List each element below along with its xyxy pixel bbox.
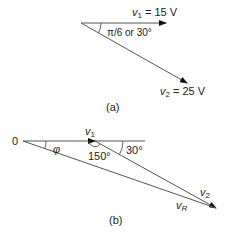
phi-arc (45, 141, 46, 149)
v2-label-b: v2 (200, 187, 210, 200)
v2-label-a: v2 = 25 V (160, 86, 205, 99)
phasor-vR-b (23, 141, 216, 208)
phasor-v2-b (95, 141, 216, 208)
angle-150-arc (89, 141, 100, 147)
v1-label-a: v1 = 15 V (132, 7, 177, 20)
v1-label-b: v1 (85, 126, 95, 139)
caption-b: (b) (109, 215, 122, 226)
caption-a: (a) (106, 102, 119, 113)
angle-30-label: 30° (126, 145, 143, 156)
angle-150-label: 150° (88, 151, 111, 162)
origin-label: 0 (12, 136, 18, 147)
angle-label-a: π/6 or 30° (107, 28, 152, 38)
angle-arc-a (98, 23, 101, 33)
angle-30-arc (120, 141, 124, 155)
phi-label: φ (53, 144, 60, 155)
vR-label-b: vR (176, 200, 187, 213)
